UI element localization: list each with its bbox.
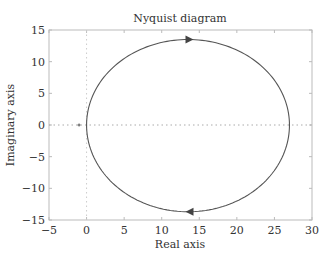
x-tick-label: 20 [230,224,244,237]
chart-title: Nyquist diagram [133,12,227,25]
y-tick-label: 15 [31,24,45,37]
x-axis-title: Real axis [155,238,206,251]
y-tick-labels: −15−10−5051015 [22,24,45,227]
y-tick-label: −10 [22,182,45,195]
nyquist-curve [87,40,290,212]
direction-arrows [186,36,194,216]
arrow-right-icon [186,36,194,44]
x-tick-labels: −5051015202530 [41,224,319,237]
nyquist-chart: −5051015202530 −15−10−5051015 Nyquist di… [0,0,331,258]
y-tick-label: 0 [38,119,45,132]
critical-point-marker [78,124,81,127]
y-tick-label: −15 [22,214,45,227]
y-tick-label: −5 [29,151,45,164]
x-tick-label: 10 [155,224,169,237]
y-tick-label: 5 [38,87,45,100]
x-tick-label: 0 [83,224,90,237]
x-tick-label: 15 [192,224,206,237]
x-tick-label: 5 [121,224,128,237]
x-tick-label: 30 [305,224,319,237]
y-tick-label: 10 [31,56,45,69]
arrow-left-icon [186,208,194,216]
y-axis-title: Imaginary axis [4,83,17,166]
x-tick-label: 25 [267,224,281,237]
